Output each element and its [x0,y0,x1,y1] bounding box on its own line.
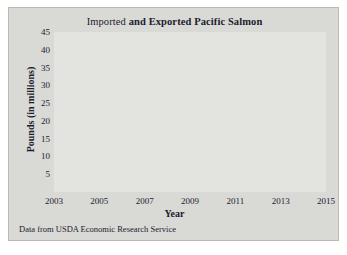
chart-title: Imported and Exported Pacific Salmon [9,16,340,27]
x-tick-label: 2005 [90,196,108,206]
y-tick-label: 20 [41,116,50,126]
y-tick-label: 45 [41,27,50,37]
y-tick-label: 30 [41,80,50,90]
x-tick-label: 2009 [181,196,199,206]
title-part-imported: Imported [87,16,129,27]
title-part-pacific-salmon: Pacific Salmon [194,16,262,27]
x-tick-label: 2007 [136,196,154,206]
y-tick-label: 25 [41,98,50,108]
x-tick-label: 2013 [272,196,290,206]
x-axis-label: Year [9,208,340,219]
chart-figure: Imported and Exported Pacific Salmon Pou… [8,7,339,241]
source-caption: Data from USDA Economic Research Service [19,224,176,234]
x-tick-label: 2003 [45,196,63,206]
y-tick-label: 40 [41,45,50,55]
plot-area: 51015202530354045 2003200520072009201120… [54,32,326,192]
y-tick-label: 35 [41,63,50,73]
y-tick-label: 15 [41,134,50,144]
title-part-and-exported: and Exported [129,16,194,27]
x-tick-label: 2015 [317,196,335,206]
y-tick-label: 10 [41,151,50,161]
y-axis-label: Pounds (in millions) [25,45,36,175]
plot-background [54,32,326,192]
y-tick-label: 5 [46,169,51,179]
x-tick-label: 2011 [226,196,244,206]
